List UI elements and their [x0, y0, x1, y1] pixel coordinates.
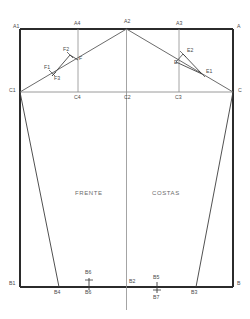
region-label-front: FRENTE — [75, 190, 103, 196]
pattern-drawing-canvas: FRENTE COSTAS A1 A4 A2 A3 A C1 C4 C2 C3 … — [0, 0, 250, 319]
point-label-B3: B3 — [191, 290, 198, 295]
point-label-E: E — [174, 60, 178, 65]
point-label-E2: E2 — [187, 48, 194, 53]
pattern-vector-graphic — [0, 0, 250, 319]
point-label-F3: F3 — [54, 76, 60, 81]
point-label-B6-bottom: B6 — [85, 290, 92, 295]
point-label-C3: C3 — [175, 95, 182, 100]
left-shoulder-line — [20, 29, 127, 92]
right-side-seam — [196, 92, 233, 287]
point-label-A4: A4 — [74, 21, 81, 26]
right-shoulder-line — [127, 29, 234, 92]
point-label-B1: B1 — [9, 281, 16, 286]
point-label-B7: B7 — [153, 295, 160, 300]
region-label-back: COSTAS — [152, 190, 180, 196]
point-label-F2: F2 — [63, 47, 69, 52]
point-label-A1: A1 — [13, 24, 20, 29]
point-label-A3: A3 — [176, 21, 183, 26]
point-label-B: B — [237, 281, 241, 286]
point-label-C2: C2 — [124, 95, 131, 100]
point-label-A: A — [237, 24, 241, 29]
point-label-B6-top: B6 — [85, 270, 92, 275]
point-label-E1: E1 — [206, 69, 213, 74]
point-label-B2: B2 — [129, 279, 136, 284]
point-label-F: F — [79, 56, 82, 61]
point-label-B4: B4 — [54, 290, 61, 295]
point-label-B5: B5 — [153, 275, 160, 280]
point-label-C4: C4 — [74, 95, 81, 100]
point-label-C1: C1 — [9, 88, 16, 93]
point-label-A2: A2 — [124, 19, 131, 24]
left-side-seam — [20, 92, 59, 287]
point-label-F1: F1 — [44, 65, 50, 70]
point-label-C: C — [238, 88, 242, 93]
